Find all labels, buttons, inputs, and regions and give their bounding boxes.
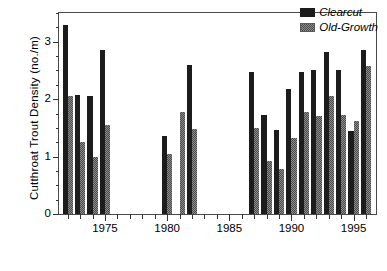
x-axis-tick xyxy=(291,214,292,221)
x-axis-minor-tick xyxy=(341,214,342,219)
x-axis-minor-tick xyxy=(254,214,255,219)
bar-old-growth-1996 xyxy=(366,66,371,214)
y-axis-tick xyxy=(53,157,59,158)
y-axis-minor-tick xyxy=(56,27,60,28)
y-axis-minor-tick xyxy=(56,114,60,115)
bar-old-growth-1981 xyxy=(180,112,185,214)
bar-old-growth-1980 xyxy=(167,154,172,214)
chart-figure: Cutthroat Trout Density (no./m) 01231975… xyxy=(0,0,387,271)
y-axis-tick-label: 2 xyxy=(45,93,51,105)
x-axis-tick xyxy=(105,214,106,221)
x-axis-minor-tick xyxy=(204,214,205,219)
x-axis-minor-tick xyxy=(142,214,143,219)
y-axis-minor-tick xyxy=(56,171,60,172)
bar-old-growth-1987 xyxy=(254,128,259,214)
x-axis-minor-tick xyxy=(93,214,94,219)
y-axis-minor-tick xyxy=(56,185,60,186)
x-axis-minor-tick xyxy=(267,214,268,219)
x-axis-tick xyxy=(167,214,168,221)
plot-area: 012319751980198519901995 xyxy=(58,12,377,215)
x-axis-minor-tick xyxy=(329,214,330,219)
x-axis-minor-tick xyxy=(117,214,118,219)
y-axis-tick xyxy=(53,42,59,43)
legend-label-clearcut: Clearcut xyxy=(319,6,362,18)
y-axis-minor-tick xyxy=(56,142,60,143)
legend-item-clearcut: Clearcut xyxy=(300,6,378,18)
x-axis-minor-tick xyxy=(279,214,280,219)
x-axis-tick-label: 1975 xyxy=(92,223,118,235)
y-axis-tick-label: 0 xyxy=(45,208,51,220)
bar-old-growth-1989 xyxy=(279,169,284,214)
x-axis-minor-tick xyxy=(68,214,69,219)
bar-group-container xyxy=(59,13,376,214)
x-axis-tick-label: 1990 xyxy=(279,223,305,235)
x-axis-minor-tick xyxy=(130,214,131,219)
bar-old-growth-1995 xyxy=(354,121,359,214)
chart-legend: Clearcut Old-Growth xyxy=(300,6,378,33)
legend-swatch-clearcut xyxy=(300,8,315,17)
bar-old-growth-1974 xyxy=(93,157,98,214)
y-axis-minor-tick xyxy=(56,200,60,201)
x-axis-minor-tick xyxy=(80,214,81,219)
x-axis-tick xyxy=(229,214,230,221)
y-axis-minor-tick xyxy=(56,128,60,129)
legend-swatch-old-growth xyxy=(300,23,315,32)
y-axis-tick xyxy=(53,99,59,100)
bar-old-growth-1993 xyxy=(329,96,334,214)
x-axis-minor-tick xyxy=(366,214,367,219)
x-axis-tick xyxy=(354,214,355,221)
bar-old-growth-1992 xyxy=(316,116,321,214)
x-axis-tick-label: 1980 xyxy=(154,223,180,235)
x-axis-tick-label: 1995 xyxy=(341,223,367,235)
bar-old-growth-1975 xyxy=(105,125,110,214)
x-axis-minor-tick xyxy=(242,214,243,219)
x-axis-minor-tick xyxy=(155,214,156,219)
legend-label-old-growth: Old-Growth xyxy=(319,21,378,33)
x-axis-minor-tick xyxy=(192,214,193,219)
y-axis-title: Cutthroat Trout Density (no./m) xyxy=(28,0,40,238)
x-axis-minor-tick xyxy=(180,214,181,219)
bar-old-growth-1973 xyxy=(80,142,85,214)
x-axis-minor-tick xyxy=(316,214,317,219)
x-axis-minor-tick xyxy=(217,214,218,219)
y-axis-tick-label: 3 xyxy=(45,36,51,48)
y-axis-minor-tick xyxy=(56,85,60,86)
y-axis-minor-tick xyxy=(56,56,60,57)
y-axis-tick-label: 1 xyxy=(45,151,51,163)
x-axis-minor-tick xyxy=(304,214,305,219)
bar-old-growth-1982 xyxy=(192,129,197,214)
bar-old-growth-1991 xyxy=(304,112,309,214)
bar-old-growth-1988 xyxy=(267,161,272,214)
y-axis-minor-tick xyxy=(56,13,60,14)
y-axis-tick xyxy=(53,214,59,215)
bar-old-growth-1994 xyxy=(341,115,346,214)
legend-item-old-growth: Old-Growth xyxy=(300,21,378,33)
bar-old-growth-1972 xyxy=(68,96,73,214)
x-axis-tick-label: 1985 xyxy=(217,223,243,235)
bar-old-growth-1990 xyxy=(291,138,296,214)
y-axis-minor-tick xyxy=(56,70,60,71)
